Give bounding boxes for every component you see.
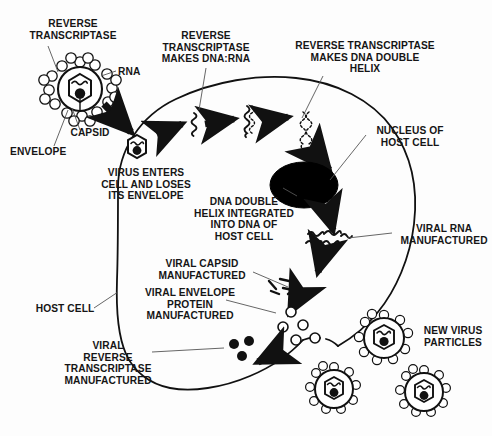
label-viral-rna-manufactured: VIRAL RNA MANUFACTURED	[396, 223, 492, 246]
diagram-canvas: REVERSE TRANSCRIPTASERNACAPSIDENVELOPERE…	[0, 0, 492, 436]
new-virion-1	[354, 309, 412, 364]
arrow-nucleus-to-rna	[327, 208, 333, 230]
label-envelope: ENVELOPE	[10, 146, 86, 158]
arrow-rna-to-capsid-parts	[318, 253, 323, 272]
label-rna: RNA	[118, 66, 152, 78]
label-viral-envelope-protein: VIRAL ENVELOPE PROTEIN MANUFACTURED	[134, 287, 246, 322]
label-rt-makes-dna-rna: REVERSE TRANSCRIPTASE MAKES DNA:RNA	[150, 30, 262, 65]
arrow-rna-to-hybrid	[205, 119, 234, 124]
new-virion-3	[396, 365, 451, 417]
arrow-capsid-to-rna	[157, 124, 182, 135]
label-reverse-transcriptase: REVERSE TRANSCRIPTASE	[18, 18, 128, 41]
dna-rna-hybrid	[245, 106, 255, 137]
label-viral-capsid-manufactured: VIRAL CAPSID MANUFACTURED	[146, 258, 258, 281]
manufactured-viral-rna	[306, 231, 352, 245]
label-virus-enters-cell: VIRUS ENTERS CELL AND LOSES ITS ENVELOPE	[92, 167, 200, 202]
label-dna-integrated: DNA DOUBLE HELIX INTEGRATED INTO DNA OF …	[186, 196, 302, 242]
manufactured-capsid-fragments	[269, 279, 296, 294]
viral-rna-strand	[192, 113, 197, 136]
reverse-transcriptase-molecules	[229, 336, 254, 361]
label-capsid: CAPSID	[60, 127, 120, 139]
label-nucleus-of-host-cell: NUCLEUS OF HOST CELL	[366, 125, 454, 148]
label-host-cell: HOST CELL	[32, 303, 98, 315]
label-new-virus-particles: NEW VIRUS PARTICLES	[414, 325, 492, 348]
arrow-hybrid-to-dna	[262, 117, 288, 122]
label-rt-makes-dna-double-helix: REVERSE TRANSCRIPTASE MAKES DNA DOUBLE H…	[290, 40, 440, 75]
new-virion-2	[306, 362, 361, 414]
envelope-protein-molecules	[278, 307, 320, 345]
entered-capsid	[128, 135, 146, 158]
label-viral-rt-manufactured: VIRAL REVERSE TRANSCRIPTASE MANUFACTURED	[54, 340, 162, 386]
free-virion	[39, 53, 121, 126]
